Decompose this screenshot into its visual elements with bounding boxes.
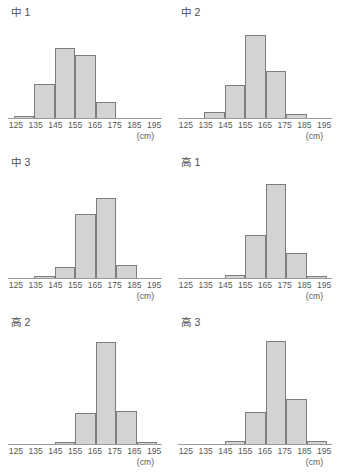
histogram-bar [75, 413, 95, 444]
bar-slot [116, 28, 136, 118]
plot-area [14, 178, 157, 278]
axis-tick-label: 165 [255, 120, 275, 131]
axis-tick-label: 135 [196, 120, 216, 131]
bar-slot [96, 178, 116, 278]
histogram-bar [245, 235, 265, 278]
x-axis-line [8, 118, 162, 119]
histogram-bar [75, 55, 95, 118]
histogram-bar [96, 342, 116, 444]
bar-slot [286, 28, 306, 118]
axis-unit-label: (cm) [137, 291, 154, 302]
x-axis-line [8, 444, 162, 445]
bar-slot [137, 28, 157, 118]
histogram-bar [225, 85, 245, 118]
histogram-bar [266, 184, 286, 278]
axis-tick-label: 145 [216, 280, 236, 291]
bar-slot [286, 178, 306, 278]
axis-tick-label: 155 [65, 120, 85, 131]
axis-tick-label: 175 [105, 446, 125, 457]
bar-slot [14, 338, 34, 444]
axis-tick-label: 145 [46, 446, 66, 457]
x-axis-ticks: 125135145155165175185195 [176, 280, 334, 291]
bar-slot [55, 28, 75, 118]
histogram-panel: 高 1125135145155165175185195(cm) [170, 150, 339, 310]
axis-tick-label: 135 [26, 446, 46, 457]
axis-unit-label: (cm) [306, 291, 323, 302]
axis-tick-label: 125 [6, 280, 26, 291]
bar-slot [204, 178, 224, 278]
panel-title: 高 1 [181, 156, 201, 168]
axis-tick-label: 165 [255, 446, 275, 457]
axis-tick-label: 175 [275, 120, 295, 131]
axis-tick-label: 175 [275, 446, 295, 457]
x-axis-ticks: 125135145155165175185195 [176, 120, 334, 131]
bar-slot [184, 178, 204, 278]
bar-slot [55, 178, 75, 278]
axis-tick-label: 195 [314, 120, 334, 131]
panel-title: 高 3 [181, 316, 201, 328]
bar-slot [34, 28, 54, 118]
axis-tick-label: 185 [295, 446, 315, 457]
axis-tick-label: 125 [176, 120, 196, 131]
panel-title: 中 1 [11, 6, 31, 18]
bar-slot [96, 28, 116, 118]
histogram-bar [55, 267, 75, 278]
bar-slot [116, 178, 136, 278]
axis-tick-label: 195 [314, 446, 334, 457]
bar-slot [75, 178, 95, 278]
axis-tick-label: 135 [26, 120, 46, 131]
histogram-bar [96, 102, 116, 118]
bar-slot [245, 28, 265, 118]
plot-area [184, 28, 327, 118]
axis-tick-label: 145 [46, 280, 66, 291]
bar-slot [204, 338, 224, 444]
axis-unit-label: (cm) [306, 131, 323, 142]
axis-tick-label: 165 [255, 280, 275, 291]
axis-tick-label: 185 [125, 120, 145, 131]
histogram-bar [245, 35, 265, 118]
axis-tick-label: 155 [65, 280, 85, 291]
histogram-bar [96, 198, 116, 278]
histogram-panel: 高 2125135145155165175185195(cm) [0, 310, 170, 476]
bar-slot [225, 28, 245, 118]
axis-tick-label: 185 [295, 120, 315, 131]
bar-slot [307, 178, 327, 278]
axis-tick-label: 155 [235, 446, 255, 457]
bar-series [14, 338, 157, 444]
bar-series [184, 28, 327, 118]
bar-slot [14, 28, 34, 118]
histogram-grid: 中 1125135145155165175185195(cm)中 2125135… [0, 0, 339, 476]
x-axis-ticks: 125135145155165175185195 [6, 120, 164, 131]
panel-title: 中 3 [11, 156, 31, 168]
axis-tick-label: 175 [105, 280, 125, 291]
histogram-bar [55, 48, 75, 118]
bar-slot [137, 178, 157, 278]
x-axis-ticks: 125135145155165175185195 [6, 280, 164, 291]
bar-slot [245, 178, 265, 278]
panel-title: 中 2 [181, 6, 201, 18]
bar-slot [75, 28, 95, 118]
axis-tick-label: 185 [125, 446, 145, 457]
histogram-bar [34, 84, 54, 118]
axis-tick-label: 125 [6, 446, 26, 457]
histogram-panel: 中 1125135145155165175185195(cm) [0, 0, 170, 150]
bar-slot [14, 178, 34, 278]
plot-area [14, 338, 157, 444]
axis-tick-label: 125 [176, 446, 196, 457]
axis-tick-label: 145 [46, 120, 66, 131]
histogram-bar [286, 253, 306, 278]
axis-tick-label: 195 [144, 280, 164, 291]
histogram-bar [116, 265, 136, 278]
bar-slot [184, 28, 204, 118]
axis-tick-label: 195 [144, 446, 164, 457]
bar-slot [266, 28, 286, 118]
bar-slot [204, 28, 224, 118]
bar-slot [116, 338, 136, 444]
x-axis-line [178, 118, 332, 119]
histogram-bar [266, 71, 286, 118]
bar-slot [307, 28, 327, 118]
bar-slot [266, 338, 286, 444]
axis-tick-label: 135 [196, 280, 216, 291]
bar-slot [245, 338, 265, 444]
bar-slot [75, 338, 95, 444]
